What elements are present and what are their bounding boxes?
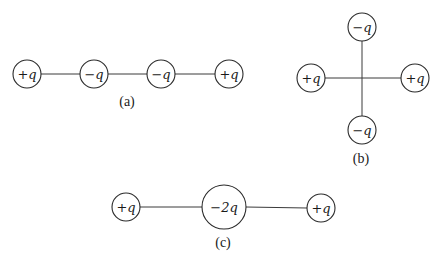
panel-c: +q−2q+q(c) bbox=[112, 185, 335, 251]
charge-node: +q bbox=[13, 60, 41, 88]
charge-label: +q bbox=[17, 67, 36, 82]
panel-a: +q−q−q+q(a) bbox=[13, 60, 243, 110]
charge-label: +q bbox=[311, 201, 330, 216]
charge-node: +q bbox=[112, 193, 140, 221]
panel-label-b: (b) bbox=[353, 151, 370, 167]
charge-label: +q bbox=[116, 200, 135, 215]
bond-line bbox=[246, 207, 307, 208]
panel-label-a: (a) bbox=[119, 94, 135, 110]
charge-label: −q bbox=[352, 123, 371, 138]
panel-label-c: (c) bbox=[215, 235, 231, 251]
charge-label: −q bbox=[352, 20, 371, 35]
charge-label: +q bbox=[219, 67, 238, 82]
charge-node: −q bbox=[348, 116, 376, 144]
charge-node: −q bbox=[147, 60, 175, 88]
charge-node: −q bbox=[348, 13, 376, 41]
charge-node: −q bbox=[80, 60, 108, 88]
charge-node: +q bbox=[307, 194, 335, 222]
charge-node: +q bbox=[215, 60, 243, 88]
charge-node: −2q bbox=[202, 185, 246, 229]
panel-b: −q+q+q−q(b) bbox=[297, 13, 429, 167]
charge-node: +q bbox=[401, 64, 429, 92]
charge-label: −q bbox=[151, 67, 170, 82]
charge-configurations-diagram: +q−q−q+q(a)−q+q+q−q(b)+q−2q+q(c) bbox=[0, 0, 439, 258]
charge-label: −q bbox=[84, 67, 103, 82]
charge-label: +q bbox=[301, 71, 320, 86]
charge-node: +q bbox=[297, 64, 325, 92]
charge-label: +q bbox=[405, 71, 424, 86]
charge-label: −2q bbox=[210, 200, 238, 215]
